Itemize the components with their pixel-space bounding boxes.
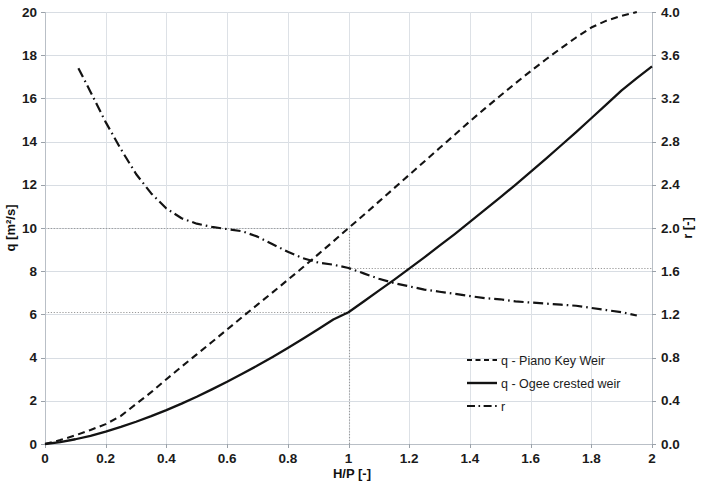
x-tick-label: 1.4	[461, 451, 480, 466]
x-tick-label: 0.2	[96, 451, 115, 466]
y-tick-label: 14	[22, 134, 38, 149]
y-tick-label: 18	[22, 48, 38, 63]
y2-tick-label: 3.6	[661, 48, 680, 63]
y2-tick-label: 4.0	[661, 5, 680, 20]
y-tick-label: 0	[29, 437, 37, 452]
x-tick-label: 2	[648, 451, 656, 466]
y-tick-label: 12	[22, 177, 37, 192]
y2-tick-label: 1.2	[661, 307, 680, 322]
x-tick-label: 0.6	[218, 451, 237, 466]
y2-tick-label: 2.0	[661, 221, 680, 236]
y2-tick-label: 1.6	[661, 264, 680, 279]
y2-tick-label: 0.8	[661, 350, 680, 365]
x-tick-label: 0.8	[278, 451, 297, 466]
x-tick-label: 1.6	[521, 451, 540, 466]
y2-tick-label: 0.4	[661, 393, 680, 408]
x-axis-title: H/P [-]	[333, 466, 371, 481]
y2-tick-label: 2.8	[661, 134, 680, 149]
x-tick-label: 1.8	[582, 451, 601, 466]
x-tick-label: 1	[345, 451, 353, 466]
x-tick-label: 1.2	[400, 451, 419, 466]
y-tick-label: 6	[29, 307, 37, 322]
legend-label: q - Ogee crested weir	[501, 377, 621, 391]
y-tick-label: 20	[22, 5, 37, 20]
legend-label: q - Piano Key Weir	[501, 354, 605, 368]
y-tick-label: 10	[22, 221, 37, 236]
y2-tick-label: 0.0	[661, 437, 680, 452]
x-tick-label: 0	[41, 451, 49, 466]
y-tick-label: 2	[29, 393, 37, 408]
x-tick-label: 0.4	[157, 451, 176, 466]
y-tick-label: 16	[22, 91, 38, 106]
y-tick-label: 4	[29, 350, 37, 365]
legend-label: r	[501, 400, 505, 414]
chart-canvas: 02468101214161820 0.00.40.81.21.62.02.42…	[0, 0, 704, 483]
y2-axis-title: r [-]	[680, 217, 695, 239]
chart-container: 02468101214161820 0.00.40.81.21.62.02.42…	[0, 0, 704, 483]
y-axis-title: q [m²/s]	[3, 205, 18, 252]
chart-background	[0, 0, 704, 483]
y-tick-label: 8	[29, 264, 37, 279]
y2-tick-label: 2.4	[661, 177, 680, 192]
y2-tick-label: 3.2	[661, 91, 680, 106]
